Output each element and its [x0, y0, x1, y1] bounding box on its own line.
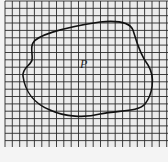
region-label-p: P: [79, 57, 88, 71]
region-on-grid-figure: P: [0, 0, 168, 162]
